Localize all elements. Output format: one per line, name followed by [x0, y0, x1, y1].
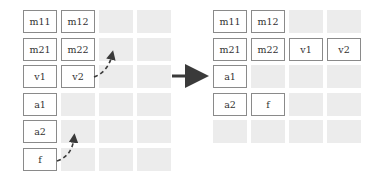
arrows-layer — [0, 0, 377, 178]
v2-move-arrow-icon — [94, 55, 112, 77]
f-move-arrow-icon — [57, 138, 74, 161]
